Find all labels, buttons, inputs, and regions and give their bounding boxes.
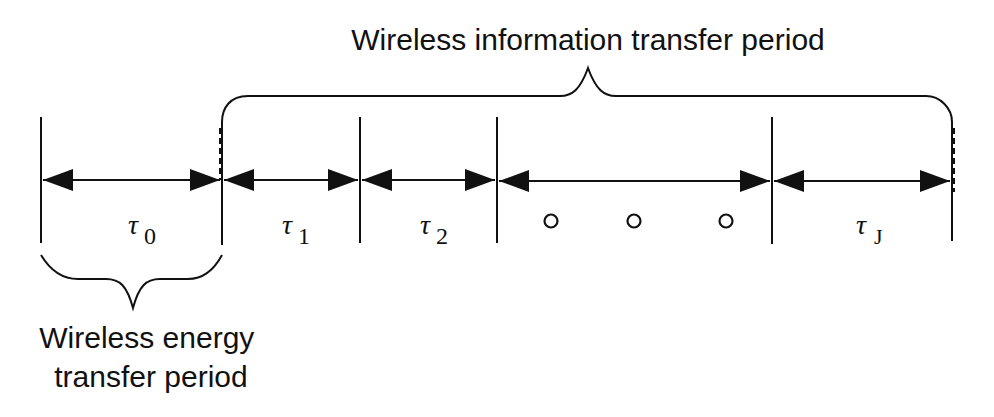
- ellipsis-circles: [545, 215, 733, 228]
- segment-label-tauJ: τJ: [856, 209, 883, 249]
- info-period-title: Wireless information transfer period: [351, 23, 825, 56]
- ellipsis-circle-1: [545, 215, 558, 228]
- energy-period-brace: [41, 255, 222, 308]
- segment-label-tau1: τ1: [282, 209, 310, 249]
- info-period-brace: [222, 68, 952, 122]
- energy-period-label: Wireless energy transfer period: [39, 321, 262, 393]
- time-frame-diagram: Wireless information transfer period τ0 …: [0, 0, 994, 417]
- ellipsis-circle-3: [720, 215, 733, 228]
- dashed-marks: [220, 128, 954, 192]
- ellipsis-circle-2: [628, 215, 641, 228]
- segment-label-tau2: τ2: [420, 209, 448, 249]
- segment-label-tau0: τ0: [128, 209, 156, 249]
